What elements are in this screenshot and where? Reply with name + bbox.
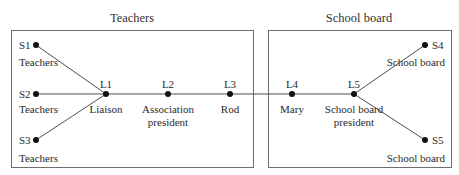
node-s3-id: S3 (19, 134, 31, 146)
node-l4-id: L4 (286, 78, 298, 90)
teachers-group-box (12, 31, 254, 168)
node-s2-dot (33, 91, 39, 97)
node-s4-dot (422, 42, 428, 48)
node-l2-id: L2 (162, 78, 174, 90)
node-l5-dot (351, 91, 357, 97)
node-l2-dot (165, 91, 171, 97)
node-l1-id: L1 (100, 78, 112, 90)
node-s4-id: S4 (432, 39, 444, 51)
node-l5-role-line2: president (334, 116, 374, 128)
node-s5-id: S5 (432, 134, 444, 146)
node-s5-role: School board (387, 152, 445, 164)
node-s1-role: Teachers (19, 56, 58, 68)
node-s1-dot (33, 42, 39, 48)
communication-network-diagram: Teachers School board S1 Teachers S2 Tea… (0, 0, 459, 175)
node-l4-role: Mary (280, 103, 304, 115)
edge-s3-l1 (36, 94, 106, 140)
school-board-group-title: School board (326, 12, 392, 24)
node-l2-role-line1: Association (142, 103, 194, 115)
node-s2-id: S2 (19, 88, 31, 100)
edge-s1-l1 (36, 45, 106, 94)
school-board-group-box (269, 31, 452, 168)
node-l3-id: L3 (224, 78, 236, 90)
node-l3-dot (227, 91, 233, 97)
node-s3-role: Teachers (19, 152, 58, 164)
node-l3-role: Rod (221, 103, 239, 115)
node-l4-dot (289, 91, 295, 97)
node-l1-role: Liaison (90, 103, 123, 115)
node-l2-role-line2: president (148, 116, 188, 128)
node-s5-dot (422, 137, 428, 143)
node-s2-role: Teachers (19, 103, 58, 115)
teachers-group-title: Teachers (110, 12, 154, 24)
node-l5-id: L5 (348, 78, 360, 90)
node-l1-dot (103, 91, 109, 97)
node-s1-id: S1 (19, 39, 31, 51)
edge-l5-s4 (354, 45, 425, 94)
node-l5-role-line1: School board (325, 103, 383, 115)
node-s4-role: School board (387, 56, 445, 68)
node-s3-dot (33, 137, 39, 143)
